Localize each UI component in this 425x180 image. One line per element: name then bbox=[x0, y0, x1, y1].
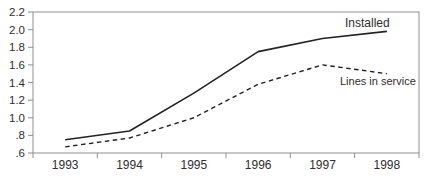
installed-series-label: Installed bbox=[345, 17, 390, 29]
x-tick-label: 1998 bbox=[373, 158, 400, 172]
y-tick-label: 1.2 bbox=[9, 94, 25, 106]
y-tick-label: 1.4 bbox=[9, 77, 26, 89]
y-tick-label: 1.8 bbox=[9, 41, 25, 53]
y-tick-label: 2.0 bbox=[9, 24, 25, 36]
y-tick-label: .8 bbox=[15, 129, 25, 141]
x-tick-label: 1995 bbox=[180, 158, 207, 172]
x-tick-label: 1996 bbox=[245, 158, 272, 172]
line-chart-figure: 2.22.01.81.61.41.21.0.8.6199319941995199… bbox=[0, 0, 425, 180]
installed-line bbox=[65, 31, 387, 139]
y-tick-label: 2.2 bbox=[9, 6, 25, 18]
x-tick-label: 1993 bbox=[52, 158, 79, 172]
y-tick-label: 1.0 bbox=[9, 112, 25, 124]
lines-in-service-line bbox=[65, 65, 387, 147]
lines-in-service-series-label: Lines in service bbox=[340, 76, 416, 87]
x-tick-label: 1994 bbox=[116, 158, 143, 172]
y-tick-label: 1.6 bbox=[9, 59, 25, 71]
x-tick-label: 1997 bbox=[309, 158, 336, 172]
y-tick-label: .6 bbox=[15, 147, 25, 159]
